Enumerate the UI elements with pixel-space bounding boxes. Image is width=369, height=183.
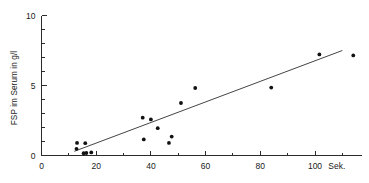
data-point: [142, 138, 146, 142]
data-point: [75, 147, 79, 151]
x-tick-label: 80: [256, 161, 266, 171]
data-point: [89, 151, 93, 155]
x-axis-unit-label: Sek.: [328, 161, 345, 171]
tick-marks-group: [42, 16, 343, 156]
x-tick-label: 20: [91, 161, 101, 171]
x-tick-label: 60: [201, 161, 211, 171]
data-points-group: [75, 53, 356, 156]
data-point: [167, 141, 171, 145]
scatter-plot-figure: 020406080100 0510 Sek. FSP im Serum in g…: [0, 0, 369, 183]
data-point: [351, 54, 355, 58]
regression-trend-line: [74, 51, 342, 152]
y-tick-label: 0: [31, 151, 36, 161]
x-tick-label: 40: [146, 161, 156, 171]
data-point: [193, 86, 197, 90]
data-point: [269, 86, 273, 90]
axes-group: [42, 16, 363, 156]
x-axis-unit-label-text: Sek.: [328, 161, 345, 171]
plot-canvas: 020406080100 0510 Sek. FSP im Serum in g…: [0, 0, 369, 183]
data-point: [156, 126, 160, 130]
x-axis-tick-labels: 020406080100: [39, 161, 322, 171]
data-point: [141, 116, 145, 120]
data-point: [75, 141, 79, 145]
data-point: [317, 53, 321, 57]
data-point: [170, 135, 174, 139]
data-point: [84, 151, 88, 155]
trend-line: [74, 51, 342, 152]
x-tick-label: 0: [39, 161, 44, 171]
data-point: [83, 141, 87, 145]
data-point: [149, 117, 153, 121]
y-tick-label: 5: [31, 81, 36, 91]
y-axis-title: FSP im Serum in g/l: [10, 51, 19, 126]
y-axis-title-text: FSP im Serum in g/l: [10, 51, 19, 126]
y-axis-tick-labels: 0510: [26, 11, 36, 161]
y-tick-label: 10: [26, 11, 36, 21]
data-point: [179, 101, 183, 105]
x-tick-label: 100: [308, 161, 322, 171]
